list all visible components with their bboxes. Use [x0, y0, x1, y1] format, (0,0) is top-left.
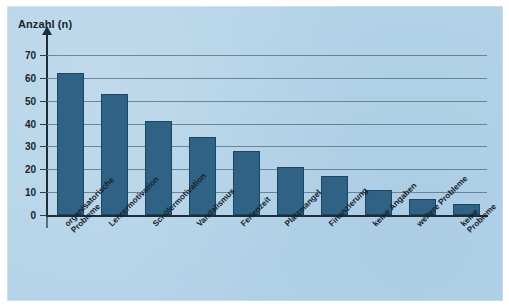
gridline	[47, 55, 487, 56]
y-tick-mark	[40, 146, 47, 147]
y-tick-mark	[40, 124, 47, 125]
y-tick-label: 50	[2, 95, 36, 106]
y-axis-arrow-icon	[42, 26, 52, 35]
y-tick-mark	[40, 55, 47, 56]
y-tick-label: 0	[2, 210, 36, 221]
y-tick-mark	[40, 101, 47, 102]
y-tick-label: 10	[2, 187, 36, 198]
y-tick-label: 60	[2, 72, 36, 83]
y-tick-label: 40	[2, 118, 36, 129]
y-tick-mark	[40, 192, 47, 193]
y-tick-label: 20	[2, 164, 36, 175]
plot-area: 010203040506070 organisatorische Problem…	[0, 0, 509, 306]
y-tick-mark	[40, 78, 47, 79]
y-axis-line	[46, 33, 48, 223]
y-tick-label: 30	[2, 141, 36, 152]
y-axis-stub	[46, 217, 48, 228]
bar	[57, 73, 84, 215]
chart-figure: Anzahl (n) 010203040506070 organisatoris…	[0, 0, 509, 306]
y-tick-mark	[40, 215, 47, 216]
bar	[145, 121, 172, 215]
gridline	[47, 78, 487, 79]
y-tick-mark	[40, 169, 47, 170]
y-tick-label: 70	[2, 50, 36, 61]
